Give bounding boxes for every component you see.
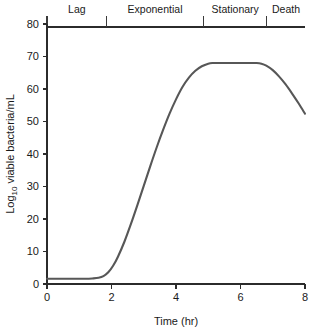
phase-label-death: Death bbox=[272, 3, 300, 15]
y-tick-label-10: 10 bbox=[27, 245, 39, 257]
x-tick-label-6: 6 bbox=[237, 291, 243, 303]
phase-label-exponential: Exponential bbox=[128, 3, 183, 15]
phase-label-lag: Lag bbox=[68, 3, 86, 15]
y-tick-label-20: 20 bbox=[27, 213, 39, 225]
y-tick-label-60: 60 bbox=[27, 83, 39, 95]
growth-curve-figure: LagExponentialStationaryDeath 0102030405… bbox=[0, 0, 316, 331]
y-tick-label-0: 0 bbox=[33, 278, 39, 290]
phase-label-stationary: Stationary bbox=[212, 3, 260, 15]
y-tick-label-40: 40 bbox=[27, 148, 39, 160]
bacterial-growth-chart: LagExponentialStationaryDeath 0102030405… bbox=[0, 0, 316, 331]
x-tick-label-8: 8 bbox=[302, 291, 308, 303]
x-tick-label-2: 2 bbox=[108, 291, 114, 303]
x-axis-title-label: Time (hr) bbox=[154, 315, 198, 327]
x-tick-label-0: 0 bbox=[44, 291, 50, 303]
y-tick-label-50: 50 bbox=[27, 115, 39, 127]
y-tick-label-70: 70 bbox=[27, 50, 39, 62]
x-tick-label-4: 4 bbox=[173, 291, 179, 303]
y-tick-label-80: 80 bbox=[27, 18, 39, 30]
y-tick-label-30: 30 bbox=[27, 180, 39, 192]
